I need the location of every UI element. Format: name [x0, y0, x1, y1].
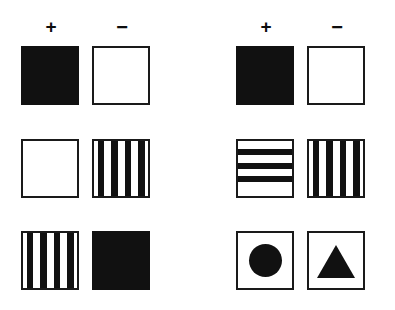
stimulus-vertical-stripes — [92, 139, 150, 198]
stripe-group — [238, 141, 292, 196]
right-panel-cell-r2-plus — [236, 139, 294, 198]
stimulus-solid-black — [236, 46, 294, 105]
left-panel: + − — [0, 0, 197, 310]
stimulus-white-outline — [21, 139, 79, 198]
triangle-icon — [317, 245, 355, 278]
stripe-bar — [27, 233, 34, 288]
stimulus-solid-black — [92, 231, 150, 290]
right-panel: + − — [197, 0, 395, 310]
stimulus-horizontal-stripes — [236, 139, 294, 198]
stimulus-solid-black — [21, 46, 79, 105]
left-panel-cell-r2-plus — [21, 139, 79, 198]
stripe-bar — [340, 141, 347, 196]
stripe-group — [94, 141, 148, 196]
stripe-bar — [54, 233, 61, 288]
right-panel-cell-r2-minus — [307, 139, 365, 198]
left-panel-cell-r2-minus — [92, 139, 150, 198]
stimulus-triangle — [307, 231, 365, 290]
right-panel-cell-r1-minus — [307, 46, 365, 105]
stripe-bar — [67, 233, 74, 288]
stimulus-vertical-stripes — [21, 231, 79, 290]
stripe-bar — [111, 141, 118, 196]
right-panel-cell-r3-plus — [236, 231, 294, 290]
stripe-bar — [40, 233, 47, 288]
left-panel-cell-r1-minus — [92, 46, 150, 105]
left-panel-cell-r3-plus — [21, 231, 79, 290]
stimulus-white-outline — [307, 46, 365, 105]
right-panel-cell-r1-plus — [236, 46, 294, 105]
stripe-bar — [353, 141, 360, 196]
stimulus-circle — [236, 231, 294, 290]
stripe-bar — [313, 141, 320, 196]
stripe-group — [309, 141, 363, 196]
stripe-bar — [138, 141, 145, 196]
left-panel-cell-r1-plus — [21, 46, 79, 105]
left-panel-cell-r3-minus — [92, 231, 150, 290]
stripe-bar — [125, 141, 132, 196]
left-panel-grid — [0, 0, 197, 310]
stripe-group — [23, 233, 77, 288]
stimulus-white-outline — [92, 46, 150, 105]
right-panel-grid — [197, 0, 395, 310]
stimulus-figure: + − — [0, 0, 395, 310]
circle-icon — [249, 244, 282, 277]
stripe-bar — [98, 141, 105, 196]
stripe-bar — [326, 141, 333, 196]
stimulus-vertical-stripes — [307, 139, 365, 198]
right-panel-cell-r3-minus — [307, 231, 365, 290]
